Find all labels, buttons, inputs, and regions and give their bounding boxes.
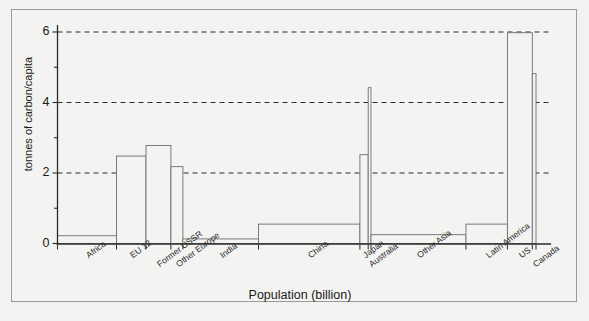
plot-area bbox=[0, 0, 589, 321]
bar-canada bbox=[532, 74, 536, 244]
y-tick-label-0: 0 bbox=[32, 236, 50, 250]
y-tick-label-4: 4 bbox=[32, 95, 50, 109]
bar-africa bbox=[58, 236, 117, 244]
bar-eu-12 bbox=[117, 156, 147, 243]
bar-australia bbox=[368, 88, 371, 244]
bar-former-ussr bbox=[146, 146, 171, 244]
bar-chart: tonnes of carbon/capita Population (bill… bbox=[0, 0, 589, 321]
bar-other-europe bbox=[171, 167, 183, 244]
bar-us bbox=[507, 33, 532, 244]
y-tick-label-6: 6 bbox=[32, 24, 50, 38]
y-tick-label-2: 2 bbox=[32, 165, 50, 179]
bar-china bbox=[258, 224, 359, 243]
bar-japan bbox=[360, 155, 368, 244]
